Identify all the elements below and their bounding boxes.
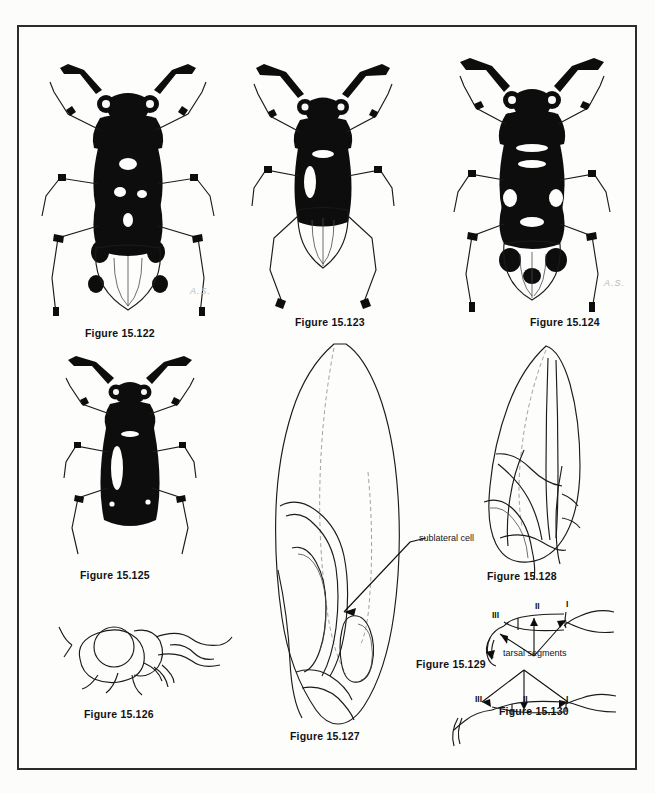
caption-figure-15-127: Figure 15.127 [290,730,360,742]
caption-figure-15-130: Figure 15.130 [499,705,569,717]
roman-numeral-two-15-130: II [523,694,528,704]
figure-15-123-illustration [248,58,398,316]
artist-signature-15-124: A.S. [604,278,625,288]
figure-15-124-illustration [452,52,612,320]
roman-numeral-three-15-130: III [475,694,482,704]
caption-figure-15-126: Figure 15.126 [84,708,154,720]
caption-figure-15-122: Figure 15.122 [85,327,155,339]
roman-numeral-two-15-129: II [535,601,540,611]
figure-15-122-illustration [38,52,218,324]
figure-plate: A.S. Figure 15.122 [0,0,655,793]
annotation-tarsal-segments-15-129: tarsal segments [503,648,567,658]
roman-numeral-three-15-129: III [492,610,499,620]
caption-figure-15-123: Figure 15.123 [295,316,365,328]
sublateral-cell-leader [330,528,450,638]
roman-numeral-one-15-129: I [566,599,568,609]
artist-signature-15-122: A.S. [190,286,211,296]
caption-figure-15-124: Figure 15.124 [530,316,600,328]
annotation-sublateral-cell: sublateral cell [419,533,474,543]
figure-15-126-illustration [58,615,234,705]
caption-figure-15-125: Figure 15.125 [80,569,150,581]
caption-figure-15-128: Figure 15.128 [487,570,557,582]
figure-15-128-illustration [476,342,586,564]
figure-15-125-illustration [62,352,198,560]
roman-numeral-one-15-130: I [566,694,568,704]
figure-15-130-illustration [448,668,618,730]
